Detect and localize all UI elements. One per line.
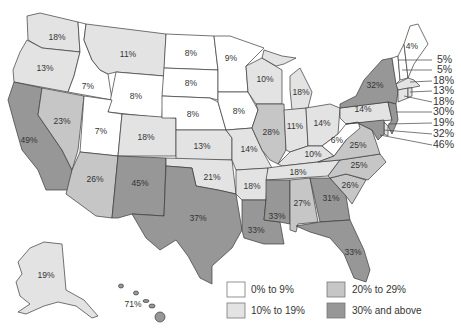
state-hi-kauai (119, 284, 124, 288)
legend-label-10-19: 10% to 19% (251, 305, 305, 316)
leader-ct (404, 96, 432, 102)
label-la: 33% (247, 225, 264, 235)
label-mt: 11% (120, 49, 137, 59)
state-ak (16, 242, 98, 318)
label-nv: 23% (53, 116, 70, 126)
label-nm: 45% (131, 178, 148, 188)
state-hi-molokai (143, 300, 149, 303)
label-mn: 9% (225, 53, 238, 63)
label-ny: 32% (366, 80, 383, 90)
label-ak: 19% (37, 270, 54, 280)
label-fl: 33% (344, 247, 361, 257)
us-choropleth-map: 18% 13% 49% 7% 23% 11% 8% 7% 18% 26% 45%… (0, 0, 461, 328)
label-va: 25% (349, 140, 366, 150)
label-ne: 8% (187, 109, 200, 119)
label-mo: 14% (240, 144, 257, 154)
label-ok: 21% (203, 172, 220, 182)
label-wv: 6% (331, 135, 344, 145)
label-sd: 8% (185, 78, 198, 88)
leader-ri (410, 91, 432, 92)
label-nc: 25% (350, 160, 367, 170)
label-or: 13% (36, 63, 53, 73)
label-hi: 71% (124, 299, 141, 309)
state-hi-oahu (134, 291, 139, 295)
label-ga: 31% (322, 193, 339, 203)
legend-swatch-20-29 (327, 282, 345, 297)
label-id: 7% (82, 81, 95, 91)
label-il: 28% (262, 127, 279, 137)
label-nd: 8% (185, 48, 198, 58)
leader-dc (380, 135, 432, 145)
label-oh: 14% (313, 118, 330, 128)
state-hi-big-island (155, 312, 165, 322)
label-ks: 13% (193, 141, 210, 151)
label-ms: 33% (268, 211, 285, 221)
label-in: 11% (287, 121, 304, 131)
legend-label-30-plus: 30% and above (352, 305, 422, 316)
label-al: 27% (293, 198, 310, 208)
state-ri (408, 88, 412, 98)
legend-swatch-30-plus (327, 303, 345, 318)
state-ct (398, 88, 408, 102)
label-ca: 49% (20, 135, 37, 145)
label-mi: 18% (292, 87, 309, 97)
legend-swatch-10-19 (227, 303, 245, 318)
label-az: 26% (86, 174, 103, 184)
label-pa: 14% (354, 104, 371, 114)
state-de (384, 122, 388, 136)
label-tn: 18% (289, 167, 306, 177)
legend-label-0-9: 0% to 9% (251, 284, 294, 295)
label-ky: 10% (304, 149, 321, 159)
label-co: 18% (137, 132, 154, 142)
state-hi-maui (149, 304, 155, 308)
legend-label-20-29: 20% to 29% (352, 284, 406, 295)
label-tx: 37% (189, 213, 206, 223)
label-me: 4% (406, 41, 419, 51)
label-wy: 8% (130, 91, 143, 101)
label-sc: 26% (341, 180, 358, 190)
label-wa: 18% (48, 32, 65, 42)
label-ut: 7% (95, 126, 108, 136)
callout-dc: 46% (433, 138, 454, 150)
label-ar: 18% (243, 181, 260, 191)
legend-swatch-0-9 (227, 282, 245, 297)
label-ia: 8% (233, 106, 246, 116)
label-wi: 10% (256, 74, 273, 84)
legend: 0% to 9% 10% to 19% 20% to 29% 30% and a… (227, 282, 422, 318)
